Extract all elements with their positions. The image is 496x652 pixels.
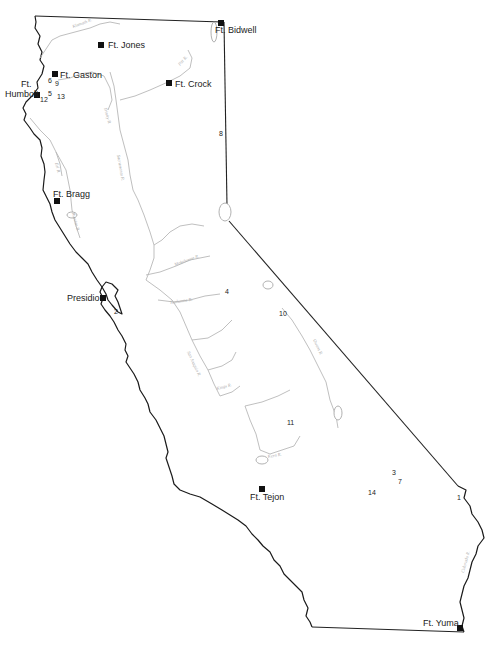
sacramento-river (110, 72, 154, 280)
river-label: Mokelumne R. (173, 253, 200, 267)
river-label: Kern R. (266, 452, 282, 460)
site-number: 5 (48, 90, 52, 97)
merced-river (192, 320, 232, 340)
tulare-lake (256, 456, 268, 464)
site-number: 6 (48, 77, 52, 84)
site-number: 13 (57, 93, 65, 100)
river-label: Klamath R. (71, 17, 93, 29)
fort-label: Ft. Bidwell (215, 25, 257, 35)
fort-label: Ft. Jones (108, 40, 146, 50)
river-label: Sacramento R. (116, 154, 126, 181)
site-number: 10 (279, 310, 287, 317)
fort-label: Ft. Gaston (60, 70, 102, 80)
fort-marker-icon (100, 295, 106, 301)
river-label: Trinity R. (103, 107, 112, 125)
river-label: Pitt R. (176, 55, 188, 68)
fort-ft-humbolt: Ft.Humbolt (5, 79, 40, 99)
fort-label: Ft. Crock (175, 79, 212, 89)
site-number: 3 (392, 469, 396, 476)
state-border-east-diagonal (229, 221, 458, 486)
site-number: 9 (55, 80, 59, 87)
forts: Ft. BidwellFt. JonesFt. GastonFt. CrockF… (5, 20, 463, 631)
site-number: 14 (368, 489, 376, 496)
kern-river-branch (245, 390, 290, 406)
river-label: Tuolumne R. (169, 297, 192, 305)
fort-ft-crock: Ft. Crock (166, 79, 212, 89)
fort-ft-bidwell: Ft. Bidwell (215, 20, 257, 35)
river-label: San Joaquin R. (186, 350, 202, 377)
lake-tahoe (219, 203, 231, 221)
fort-marker-icon (166, 80, 172, 86)
fort-label: Ft. Bragg (53, 189, 90, 199)
river-label: Russian R. (71, 211, 81, 232)
fort-marker-icon (52, 71, 58, 77)
fort-ft-tejon: Ft. Tejon (250, 486, 284, 502)
fort-ft-gaston: Ft. Gaston (52, 70, 102, 80)
river-label: Owens R. (312, 338, 324, 356)
fort-ft-jones: Ft. Jones (98, 40, 146, 50)
fort-label: Ft. Tejon (250, 492, 284, 502)
river-label: Colorado R. (460, 550, 471, 573)
fort-label: Ft. (21, 79, 32, 89)
fort-ft-yuma: Ft. Yuma (423, 618, 463, 631)
river-label: Eel R. (54, 161, 62, 174)
site-number: 11 (287, 419, 294, 426)
feather-river (154, 224, 204, 245)
fort-label: Humbolt (5, 89, 39, 99)
river-label: Kings R. (215, 382, 232, 391)
site-number: 8 (219, 130, 223, 137)
colorado-river-border (458, 486, 484, 632)
coastline (23, 16, 312, 627)
fort-label: Presidio (67, 293, 100, 303)
kern-river (245, 406, 300, 454)
site-number: 1 (457, 494, 461, 501)
kings-river (208, 352, 236, 370)
mono-lake (263, 281, 273, 289)
fort-presidio: Presidio (67, 293, 106, 303)
california-map: Klamath R.Pitt R.Trinity R.Eel R.Russian… (0, 0, 496, 652)
owens-lake (334, 406, 342, 420)
site-number: 4 (225, 288, 229, 295)
site-number: 7 (398, 478, 402, 485)
state-border-east-vertical (224, 22, 227, 206)
state-border-north (35, 16, 222, 22)
fort-marker-icon (98, 42, 104, 48)
site-number: 12 (40, 96, 48, 103)
fort-label: Ft. Yuma (423, 618, 459, 628)
owens-river (282, 308, 338, 428)
site-number: 2 (114, 308, 118, 315)
